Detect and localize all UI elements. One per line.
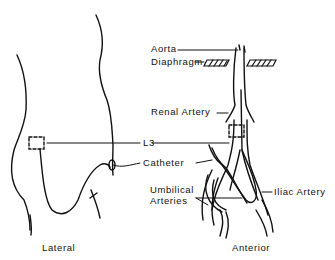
diagram-drawing [0, 0, 335, 260]
diaphragm-hatched [204, 60, 276, 66]
caption-anterior: Anterior [232, 243, 270, 254]
label-catheter: Catheter [143, 158, 184, 169]
label-diaphragm: Diaphragm [151, 57, 203, 68]
umbilical-arteries-anterior [206, 175, 229, 238]
label-umbilical-line2: Arteries [150, 196, 194, 207]
leader-lines [47, 50, 272, 205]
l3-box-lateral [29, 137, 44, 149]
umbilical-catheter-diagram: Aorta Diaphragm Renal Artery L3 Catheter… [0, 0, 335, 260]
label-umbilical-arteries: Umbilical Arteries [150, 185, 194, 207]
lateral-body-outline [12, 15, 113, 235]
aorta-anterior [226, 45, 254, 122]
label-renal-artery: Renal Artery [151, 107, 210, 118]
label-l3: L3 [143, 138, 155, 149]
label-aorta: Aorta [151, 44, 177, 55]
catheter-lateral [40, 149, 110, 214]
label-iliac-artery: Iliac Artery [274, 187, 326, 198]
caption-lateral: Lateral [42, 243, 75, 254]
